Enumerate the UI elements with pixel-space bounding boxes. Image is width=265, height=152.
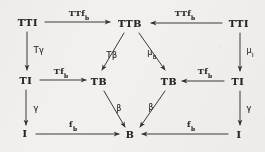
edge-label-ti-left-to-tb-left: Tfb: [54, 66, 68, 76]
edge-label-subscript: I: [252, 52, 254, 58]
edge-label-text: μ: [147, 48, 153, 57]
edge-label-subscript: B: [153, 54, 157, 60]
node-i-left: I: [22, 128, 27, 139]
edge-label-i-right-to-b: fb: [187, 119, 195, 129]
edge-label-text: μ: [246, 46, 252, 55]
edge-label-ttb-to-tb-right: μB: [147, 48, 156, 57]
edge-label-subscript: b: [208, 73, 212, 79]
node-tti-left: TTI: [18, 17, 38, 28]
edge-label-subscript: b: [73, 126, 77, 132]
edge-label-tb-left-to-b: β: [116, 104, 122, 113]
edge-label-ti-left-to-i-left: γ: [33, 104, 38, 113]
edge-label-subscript: b: [191, 15, 195, 21]
edge-label-text: Tf: [54, 66, 64, 76]
edge-label-text: β: [148, 103, 154, 112]
edge-label-tb-right-to-b: β: [148, 103, 154, 112]
node-tb-right: TB: [161, 76, 178, 87]
edge-label-tti-right-to-ti-right: μI: [246, 46, 253, 55]
edge-label-subscript: b: [191, 126, 195, 132]
edge-label-ttb-to-tb-left: Tβ: [107, 51, 118, 60]
edge-label-tti-left-to-ti-left: Tγ: [34, 46, 44, 55]
edge-label-ti-right-to-tb-right: Tfb: [198, 66, 212, 76]
edge-label-tti-right-to-ttb: TTfb: [175, 8, 195, 18]
node-tti-right: TTI: [229, 18, 249, 29]
node-ti-right: TI: [232, 76, 245, 87]
node-ti-left: TI: [20, 75, 33, 86]
node-ttb: TTB: [118, 18, 142, 29]
edge-label-subscript: b: [85, 15, 89, 21]
edge-label-text: γ: [33, 104, 38, 113]
edge-label-tti-left-to-ttb: TTfb: [69, 8, 89, 18]
edge-label-text: β: [116, 104, 122, 113]
edge-label-i-left-to-b: fb: [69, 119, 77, 129]
edge-label-text: Tγ: [34, 46, 44, 55]
commutative-diagram: TTI TTB TTI TI TB TB TI I B I TTfb TTfb …: [0, 0, 265, 152]
edge-label-text: TTf: [175, 8, 191, 18]
edge-label-ti-right-to-i-right: γ: [246, 104, 251, 113]
node-tb-left: TB: [91, 76, 108, 87]
edge-label-text: Tβ: [107, 51, 118, 60]
node-i-right: I: [236, 129, 241, 140]
edge-label-subscript: b: [64, 73, 68, 79]
edge-label-text: γ: [246, 104, 251, 113]
node-b: B: [126, 129, 135, 140]
edge-label-text: TTf: [69, 8, 85, 18]
edge-label-text: Tf: [198, 66, 208, 76]
